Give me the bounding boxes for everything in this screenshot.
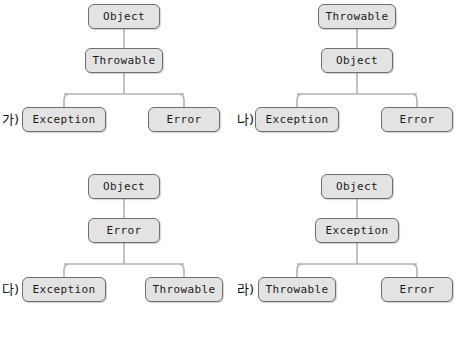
node-root-na: Throwable (318, 4, 396, 29)
option-ga: Object Throwable Exception Error 가) (0, 0, 232, 169)
node-mid-da: Error (88, 218, 160, 243)
node-root-da: Object (88, 174, 160, 199)
diagram-canvas: Object Throwable Exception Error 가) Thro… (0, 0, 465, 339)
node-mid-ga: Throwable (85, 48, 163, 73)
node-mid-ra: Exception (315, 218, 399, 243)
option-ra: Object Exception Throwable Error 라) (233, 170, 465, 339)
node-leaf-left-ra: Throwable (258, 277, 336, 302)
node-root-ra: Object (321, 174, 393, 199)
link-split-leaves (297, 88, 417, 107)
option-label-na: 나) (237, 110, 254, 129)
option-label-da: 다) (2, 280, 19, 299)
option-label-ga: 가) (2, 110, 19, 129)
node-root-ga: Object (88, 4, 160, 29)
node-leaf-left-da: Exception (22, 277, 106, 302)
link-split-leaves (64, 88, 184, 107)
option-na: Throwable Object Exception Error 나) (233, 0, 465, 169)
link-split-leaves (64, 258, 184, 277)
option-label-ra: 라) (237, 280, 254, 299)
node-leaf-right-ra: Error (381, 277, 453, 302)
node-leaf-right-da: Throwable (145, 277, 223, 302)
node-leaf-right-na: Error (381, 107, 453, 132)
node-mid-na: Object (321, 48, 393, 73)
link-split-leaves (297, 258, 417, 277)
node-leaf-left-ga: Exception (22, 107, 106, 132)
node-leaf-right-ga: Error (148, 107, 220, 132)
option-da: Object Error Exception Throwable 다) (0, 170, 232, 339)
node-leaf-left-na: Exception (255, 107, 339, 132)
